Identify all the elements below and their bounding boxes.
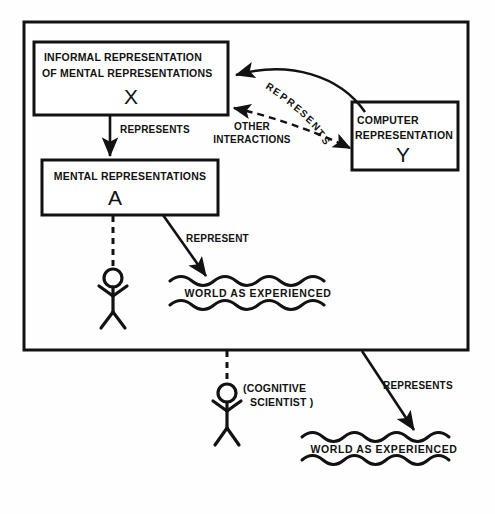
stick-figure-cognitive-scientist: (COGNITIVE SCIENTIST )	[213, 351, 313, 445]
edge-other-interactions-label-line2: INTERACTIONS	[213, 134, 291, 145]
box-informal-symbol: X	[124, 85, 138, 108]
box-computer-line1: COMPUTER	[357, 114, 419, 126]
edge-mental-to-world-label: REPRESENT	[186, 233, 249, 244]
edge-mental-to-world: REPRESENT	[163, 215, 249, 276]
box-mental-symbol: A	[108, 186, 122, 209]
box-informal-line2: OF MENTAL REPRESENTATIONS	[42, 67, 212, 79]
box-mental-representations: MENTAL REPRESENTATIONS A	[42, 160, 218, 215]
cognitive-scientist-label-line2: SCIENTIST )	[250, 396, 313, 408]
box-computer-representation: COMPUTER REPRESENTATION Y	[352, 102, 458, 170]
edge-informal-to-mental: REPRESENTS	[110, 115, 190, 156]
edge-other-interactions-label-line1: OTHER	[234, 121, 271, 132]
box-informal-representation: INFORMAL REPRESENTATION OF MENTAL REPRES…	[34, 42, 228, 115]
stick-figure-inner	[99, 216, 127, 328]
diagram-root: INFORMAL REPRESENTATION OF MENTAL REPRES…	[0, 0, 495, 514]
edge-informal-to-mental-label: REPRESENTS	[120, 124, 190, 135]
world-inner: WORLD AS EXPERIENCED	[170, 277, 331, 310]
box-computer-symbol: Y	[396, 143, 410, 166]
edge-frame-to-outer-world-label: REPRESENTS	[383, 380, 453, 391]
cognitive-scientist-label-line1: (COGNITIVE	[243, 382, 306, 394]
edge-frame-to-outer-world: REPRESENTS	[362, 351, 453, 430]
box-mental-line1: MENTAL REPRESENTATIONS	[54, 170, 206, 182]
world-outer: WORLD AS EXPERIENCED	[302, 433, 457, 465]
diagram-canvas: INFORMAL REPRESENTATION OF MENTAL REPRES…	[0, 0, 495, 514]
world-inner-label: WORLD AS EXPERIENCED	[185, 287, 332, 299]
box-informal-line1: INFORMAL REPRESENTATION	[44, 51, 202, 63]
world-outer-label: WORLD AS EXPERIENCED	[311, 443, 458, 455]
box-computer-line2: REPRESENTATION	[355, 129, 453, 141]
